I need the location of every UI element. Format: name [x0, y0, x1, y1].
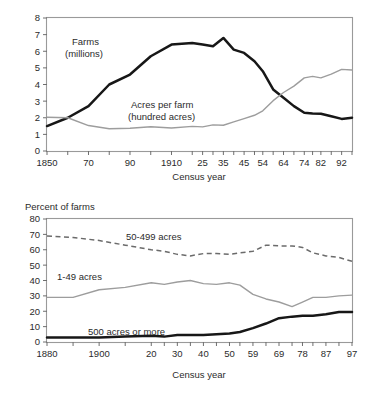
svg-text:(hundred acres): (hundred acres): [128, 111, 195, 122]
y-tick-label: 10: [29, 321, 40, 332]
y-tick-label: 20: [29, 306, 40, 317]
x-axis-title-top: Census year: [172, 171, 225, 182]
data-series-bottom: [47, 236, 352, 337]
x-tick-label: 92: [336, 157, 347, 168]
y-tick-label: 80: [29, 213, 40, 224]
svg-text:Acres per farm: Acres per farm: [131, 99, 193, 110]
x-tick-label: 64: [278, 157, 289, 168]
x-tick-label: 54: [257, 157, 268, 168]
y-tick-label: 40: [29, 275, 40, 286]
y-tick-label: 8: [35, 12, 40, 23]
x-tick-label: 1910: [161, 157, 182, 168]
x-tick-label: 45: [239, 157, 250, 168]
x-axis-tick-labels-bottom: 18801900203040505969788797: [36, 348, 357, 359]
x-tick-label: 1900: [89, 348, 110, 359]
x-tick-label: 69: [274, 348, 285, 359]
x-tick-label: 35: [218, 157, 229, 168]
x-tick-label: 97: [347, 348, 358, 359]
x-tick-label: 82: [316, 157, 327, 168]
series-line: [47, 69, 352, 128]
x-tick-label: 30: [172, 348, 183, 359]
x-tick-label: 1850: [36, 157, 57, 168]
y-tick-label: 0: [35, 145, 40, 156]
y-tick-label: 4: [35, 79, 40, 90]
x-axis-tick-labels-top: 1850709019102535455464748292: [36, 157, 346, 168]
x-tick-label: 90: [125, 157, 136, 168]
svg-text:(millions): (millions): [65, 48, 103, 59]
y-tick-label: 0: [35, 336, 40, 347]
y-tick-label: 30: [29, 290, 40, 301]
x-tick-label: 50: [224, 348, 235, 359]
x-tick-label: 25: [197, 157, 208, 168]
y-axis-tick-labels-bottom: 01020304050607080: [29, 213, 40, 347]
y-axis-tick-labels-top: 012345678: [35, 12, 40, 156]
x-tick-label: 1880: [36, 348, 57, 359]
y-tick-label: 60: [29, 244, 40, 255]
series-line: [47, 236, 352, 261]
y-tick-label: 70: [29, 229, 40, 240]
x-tick-label: 59: [248, 348, 259, 359]
x-tick-label: 20: [146, 348, 157, 359]
y-tick-label: 50: [29, 260, 40, 271]
x-tick-label: 40: [198, 348, 209, 359]
x-axis-title-bottom: Census year: [172, 369, 225, 380]
chart-farms-and-acres: 012345678 1850709019102535455464748292 C…: [0, 0, 369, 195]
y-tick-label: 7: [35, 29, 40, 40]
series-label-500-acres-or-more: 500 acres or more: [88, 326, 165, 337]
series-label-1-49-acres: 1-49 acres: [57, 271, 102, 282]
x-tick-label: 78: [297, 348, 308, 359]
x-tick-label: 70: [83, 157, 94, 168]
series-line: [47, 281, 352, 307]
y-tick-label: 5: [35, 62, 40, 73]
x-tick-label: 74: [299, 157, 310, 168]
svg-text:Farms: Farms: [72, 36, 99, 47]
series-label-50-499-acres: 50-499 acres: [126, 231, 182, 242]
y-tick-label: 2: [35, 112, 40, 123]
x-tick-label: 87: [321, 348, 332, 359]
y-tick-label: 1: [35, 129, 40, 140]
chart-percent-of-farms-by-size: Percent of farms 01020304050607080 18801…: [0, 195, 369, 400]
series-label-acres-per-farm: Acres per farm (hundred acres): [128, 99, 195, 122]
series-label-farms: Farms (millions): [65, 36, 103, 59]
y-tick-label: 3: [35, 96, 40, 107]
y-tick-label: 6: [35, 46, 40, 57]
panel-title-percent-of-farms: Percent of farms: [25, 201, 95, 212]
farm-statistics-figure: 012345678 1850709019102535455464748292 C…: [0, 0, 369, 400]
